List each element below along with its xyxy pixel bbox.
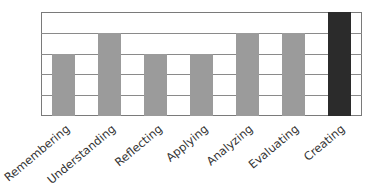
bar-creating — [328, 12, 351, 116]
bar-remembering — [52, 54, 75, 116]
bar-evaluating — [282, 33, 305, 116]
bar-chart: RememberingUnderstandingReflectingApplyi… — [0, 0, 377, 186]
bar-reflecting — [144, 54, 167, 116]
x-axis-label-creating: Creating — [301, 122, 347, 164]
bar-applying — [190, 54, 213, 116]
x-axis-label-evaluating: Evaluating — [246, 122, 302, 172]
bar-analyzing — [236, 33, 259, 116]
bar-understanding — [98, 33, 121, 116]
x-axis-label-reflecting: Reflecting — [112, 122, 165, 170]
gridline — [41, 33, 362, 34]
